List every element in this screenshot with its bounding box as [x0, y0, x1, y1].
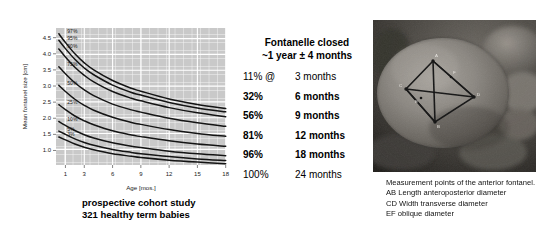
closure-percent: 96% — [243, 149, 295, 160]
y-tick-label: 2.5 — [43, 99, 52, 105]
closure-percent: 100% — [243, 169, 295, 180]
closure-age: 18 months — [295, 149, 345, 160]
x-tick-label: 12 — [166, 171, 173, 177]
y-tick-label: 3.5 — [43, 67, 52, 73]
curve-label-50pct: 50% — [67, 80, 78, 86]
curve-label-90pct: 90% — [67, 43, 78, 49]
y-axis-label: Mean fontanel size [cm] — [21, 64, 28, 130]
left-caption: prospective cohort study 321 healthy ter… — [82, 197, 252, 220]
right-caption-line-3: CD Width transverse diameter — [386, 199, 560, 209]
fontanelle-percentile-chart: 97%95%90%75%50%25%10%5%3% 1.01.52.02.53.… — [14, 10, 244, 195]
closure-rate-row: 56%9 months — [243, 110, 371, 130]
chart-svg: 97%95%90%75%50%25%10%5%3% 1.01.52.02.53.… — [14, 10, 244, 195]
closure-age: 3 months — [295, 71, 336, 82]
slide-canvas: 97%95%90%75%50%25%10%5%3% 1.01.52.02.53.… — [0, 0, 560, 231]
x-tick-label: 18 — [222, 171, 229, 177]
x-tick-label: 3 — [83, 171, 87, 177]
fontanelle-closed-title: Fontanelle closed ~1 year ± 4 months — [243, 36, 371, 62]
x-tick-label: 9 — [139, 171, 143, 177]
right-caption: Measurement points of the anterior fonta… — [386, 178, 560, 220]
closure-rate-list: 11% @3 months32%6 months56%9 months81%12… — [243, 71, 371, 188]
percentile-curve-labels: 97%95%90%75%50%25%10%5%3% — [67, 28, 78, 137]
curve-label-10pct: 10% — [67, 116, 78, 122]
left-caption-line-2: 321 healthy term babies — [82, 209, 252, 221]
closure-age: 6 months — [295, 91, 339, 102]
y-tick-label: 4.0 — [43, 51, 52, 57]
closure-age: 12 months — [295, 130, 345, 141]
closure-rate-row: 100%24 months — [243, 169, 371, 189]
closure-percent: 11% @ — [243, 71, 295, 82]
curve-label-75pct: 75% — [67, 61, 78, 67]
y-axis-ticks: 1.01.52.02.53.03.54.04.5 — [43, 35, 56, 154]
photo-grain — [373, 20, 536, 172]
fontanelle-photo: A B C D E F — [373, 20, 536, 172]
y-tick-label: 4.5 — [43, 35, 52, 41]
y-tick-label: 2.0 — [43, 115, 52, 121]
x-tick-label: 15 — [194, 171, 201, 177]
right-caption-line-4: EF oblique diameter — [386, 209, 560, 219]
fontanelle-closed-title-line-1: Fontanelle closed — [243, 36, 371, 49]
right-caption-line-1: Measurement points of the anterior fonta… — [386, 178, 560, 188]
x-axis-ticks: 1369121518 — [64, 165, 230, 177]
y-tick-label: 1.5 — [43, 131, 52, 137]
closure-rate-row: 11% @3 months — [243, 71, 371, 91]
closure-percent: 81% — [243, 130, 295, 141]
closure-rate-row: 32%6 months — [243, 91, 371, 111]
fontanelle-closure-summary: Fontanelle closed ~1 year ± 4 months 11%… — [243, 36, 371, 196]
y-tick-label: 1.0 — [43, 147, 52, 153]
closure-age: 24 months — [295, 169, 342, 180]
closure-percent: 56% — [243, 110, 295, 121]
x-tick-label: 6 — [111, 171, 115, 177]
closure-rate-row: 81%12 months — [243, 130, 371, 150]
y-tick-label: 3.0 — [43, 83, 52, 89]
right-caption-line-2: AB Length anteroposterior diameter — [386, 188, 560, 198]
left-caption-line-1: prospective cohort study — [82, 197, 252, 209]
x-axis-label: Age [mos.] — [126, 184, 156, 191]
curve-label-95pct: 95% — [67, 35, 78, 41]
x-tick-label: 1 — [64, 171, 68, 177]
photo-svg: A B C D E F — [373, 20, 536, 172]
closure-percent: 32% — [243, 91, 295, 102]
closure-age: 9 months — [295, 110, 339, 121]
curve-label-3pct: 3% — [67, 131, 75, 137]
curve-label-25pct: 25% — [67, 99, 78, 105]
curve-label-97pct: 97% — [67, 28, 78, 34]
fontanelle-closed-title-line-2: ~1 year ± 4 months — [243, 49, 371, 62]
closure-rate-row: 96%18 months — [243, 149, 371, 169]
